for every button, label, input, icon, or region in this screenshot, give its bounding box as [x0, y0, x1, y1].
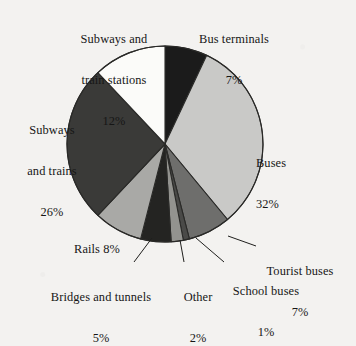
- slice-label-value: 7%: [248, 306, 352, 320]
- slice-label-bus-terminals: Bus terminals 7%: [176, 6, 292, 115]
- slice-label-line-1: Bus terminals: [176, 33, 292, 47]
- slice-label-tourist-buses: Tourist buses 7%: [248, 238, 352, 346]
- slice-label-bridges-and-tunnels: Bridges and tunnels 5%: [28, 264, 174, 346]
- slice-label-line-1: Rails 8%: [52, 243, 142, 257]
- slice-label-value: 7%: [176, 74, 292, 88]
- slice-label-buses: Buses 32%: [256, 130, 326, 239]
- slice-label-line-1: Bridges and tunnels: [28, 291, 174, 305]
- leader-line-other: [180, 240, 184, 262]
- slice-label-line-1: Subways: [2, 124, 102, 138]
- slice-label-line-1: Tourist buses: [248, 265, 352, 279]
- slice-label-value: 5%: [28, 332, 174, 346]
- slice-label-line-2: train stations: [52, 74, 176, 88]
- slice-label-value: 32%: [256, 198, 326, 212]
- slice-label-line-1: Buses: [256, 157, 326, 171]
- slice-label-line-1: Subways and: [52, 33, 176, 47]
- slice-label-line-2: and trains: [2, 165, 102, 179]
